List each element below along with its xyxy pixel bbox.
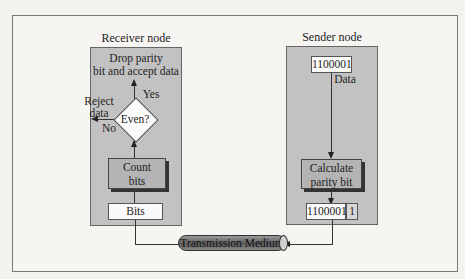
output-to-medium-line-h bbox=[287, 244, 333, 245]
accept-label-line2: bit and accept data bbox=[80, 65, 192, 78]
no-arrowhead-icon bbox=[91, 116, 98, 122]
calculate-parity-box: Calculate parity bit bbox=[301, 159, 362, 189]
calc-arrowhead-icon bbox=[328, 152, 334, 159]
parity-bit-box: 1 bbox=[346, 203, 358, 220]
count-bits-box: Count bits bbox=[108, 158, 166, 189]
data-box: 1100001 bbox=[311, 56, 352, 73]
medium-to-bits-line-v bbox=[135, 220, 136, 244]
calc-label-line1: Calculate bbox=[302, 161, 361, 175]
count-label-line1: Count bbox=[109, 160, 165, 174]
data-to-calc-line bbox=[331, 73, 332, 157]
decision-arrowhead-icon bbox=[131, 140, 137, 147]
decision-label: Even? bbox=[114, 113, 156, 126]
receiver-node-title: Receiver node bbox=[76, 31, 196, 46]
output-to-medium-line-v bbox=[332, 220, 333, 244]
count-label-line2: bits bbox=[109, 174, 165, 188]
medium-to-bits-line-h bbox=[135, 244, 179, 245]
transmission-medium: Transmission Medium bbox=[178, 235, 286, 251]
sender-node-title: Sender node bbox=[272, 30, 392, 45]
yes-label: Yes bbox=[139, 88, 163, 101]
yes-arrowhead-icon bbox=[131, 79, 137, 86]
data-label: Data bbox=[333, 73, 357, 86]
accept-label-line1: Drop parity bbox=[86, 52, 186, 65]
bits-box: Bits bbox=[108, 203, 163, 220]
pipe-end-cap bbox=[279, 235, 288, 251]
output-data-box: 1100001 bbox=[306, 203, 346, 220]
figure-frame bbox=[12, 15, 458, 272]
calc-label-line2: parity bit bbox=[302, 175, 361, 189]
